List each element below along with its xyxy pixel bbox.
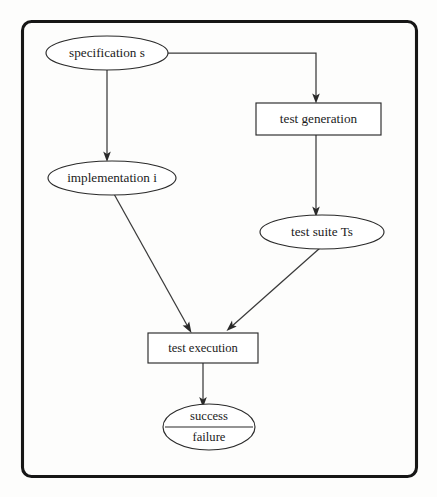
edge-test-suite-to-test-execution xyxy=(227,248,321,331)
node-test-execution[interactable]: test execution xyxy=(148,333,258,363)
specification-label: specification s xyxy=(69,45,145,60)
test-suite-label: test suite Ts xyxy=(291,224,353,239)
test-generation-label: test generation xyxy=(280,111,358,126)
diagram-canvas: specification s test generation implemen… xyxy=(0,0,437,497)
node-specification[interactable]: specification s xyxy=(46,36,168,70)
node-verdict[interactable]: success failure xyxy=(163,404,255,450)
verdict-failure-label: failure xyxy=(193,430,226,444)
implementation-label: implementation i xyxy=(67,170,157,185)
verdict-success-label: success xyxy=(190,409,228,423)
test-execution-label: test execution xyxy=(168,341,238,355)
edge-implementation-to-test-execution xyxy=(114,194,192,333)
edge-test-generation-to-test-suite xyxy=(312,135,320,217)
edge-specification-to-implementation xyxy=(103,70,111,162)
node-test-generation[interactable]: test generation xyxy=(256,103,381,135)
edge-test-execution-to-verdict xyxy=(199,363,207,408)
testing-process-diagram: specification s test generation implemen… xyxy=(0,0,437,497)
edge-specification-to-test-generation xyxy=(168,53,320,104)
node-test-suite[interactable]: test suite Ts xyxy=(260,215,384,249)
node-implementation[interactable]: implementation i xyxy=(48,161,176,195)
